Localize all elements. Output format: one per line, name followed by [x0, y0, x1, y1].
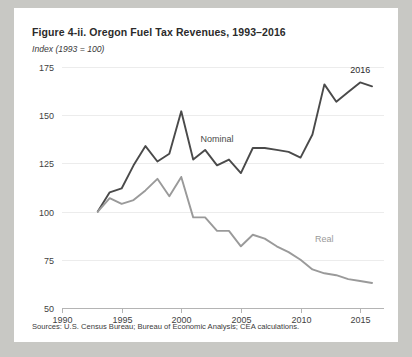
series-label-real: Real	[315, 234, 334, 244]
y-axis-tick-label: 125	[39, 159, 54, 169]
gridlines	[62, 68, 384, 309]
line-chart: 5075100125150175 19901995200020052010201…	[14, 8, 398, 342]
annotation-end-year: 2016	[350, 65, 370, 75]
x-axis-tick-label: 2015	[350, 315, 370, 325]
y-axis-tick-label: 175	[39, 63, 54, 73]
figure-card: Figure 4-ii. Oregon Fuel Tax Revenues, 1…	[14, 8, 398, 342]
y-axis-tick-label: 150	[39, 111, 54, 121]
series-line-nominal	[98, 82, 372, 211]
figure-source: Sources: U.S. Census Bureau; Bureau of E…	[32, 322, 299, 331]
series-inline-labels: NominalReal	[201, 134, 334, 244]
series-line-real	[98, 177, 372, 283]
series-label-nominal: Nominal	[201, 134, 234, 144]
y-axis-tick-label: 100	[39, 208, 54, 218]
axis-ticks	[63, 309, 361, 313]
chart-annotations: 2016	[350, 65, 370, 75]
y-axis-labels: 5075100125150175	[39, 63, 54, 314]
y-axis-tick-label: 50	[44, 304, 54, 314]
series-lines	[98, 82, 372, 283]
y-axis-tick-label: 75	[44, 256, 54, 266]
